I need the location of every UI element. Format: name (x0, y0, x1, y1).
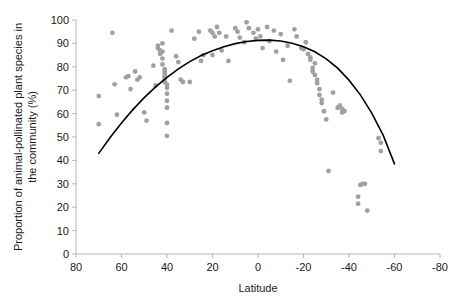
data-point (342, 109, 347, 114)
data-point (378, 140, 383, 145)
data-points-group (96, 20, 383, 213)
data-point (285, 43, 290, 48)
data-point (322, 109, 327, 114)
data-point (265, 25, 270, 30)
data-point (215, 25, 220, 30)
x-tick-label: 80 (70, 261, 82, 273)
y-tick-label: 60 (57, 108, 69, 120)
x-tick-label: -40 (341, 261, 357, 273)
chart-canvas: 0102030405060708090100806040200-20-40-60… (0, 0, 464, 308)
data-point (315, 81, 320, 86)
x-tick-label: 40 (161, 261, 173, 273)
data-point (165, 121, 170, 126)
data-point (247, 26, 252, 31)
data-point (251, 30, 256, 35)
scatter-chart: 0102030405060708090100806040200-20-40-60… (0, 0, 464, 308)
data-point (256, 27, 261, 32)
data-point (272, 28, 277, 33)
data-point (160, 62, 165, 67)
data-point (151, 63, 156, 68)
y-tick-label: 100 (51, 14, 69, 26)
data-point (169, 28, 174, 33)
data-point (224, 34, 229, 39)
y-axis-title-line-1: Proportion of animal-pollinated plant sp… (12, 23, 24, 251)
data-point (287, 78, 292, 83)
data-point (278, 32, 283, 37)
data-point (303, 40, 308, 45)
y-tick-label: 30 (57, 178, 69, 190)
data-point (244, 20, 249, 25)
data-point (96, 122, 101, 127)
x-tick-label: -20 (296, 261, 312, 273)
data-point (199, 59, 204, 64)
data-point (165, 133, 170, 138)
data-point (96, 94, 101, 99)
data-point (160, 49, 165, 54)
y-tick-label: 20 (57, 201, 69, 213)
data-point (274, 49, 279, 54)
data-point (237, 35, 242, 40)
data-point (363, 181, 368, 186)
y-tick-label: 90 (57, 37, 69, 49)
y-tick-label: 80 (57, 61, 69, 73)
data-point (165, 85, 170, 90)
data-point (160, 56, 165, 61)
data-point (308, 57, 313, 62)
data-point (281, 57, 286, 62)
y-axis-ticks: 0102030405060708090100 (51, 14, 76, 260)
data-point (137, 75, 142, 80)
x-axis-title: Latitude (238, 282, 277, 294)
data-point (331, 90, 336, 95)
data-point (356, 194, 361, 199)
data-point (217, 30, 222, 35)
data-point (312, 73, 317, 78)
data-point (165, 98, 170, 103)
data-point (378, 149, 383, 154)
y-tick-label: 70 (57, 84, 69, 96)
data-point (192, 36, 197, 41)
data-point (174, 54, 179, 59)
y-axis-title-line-2: the community (%) (26, 91, 38, 183)
data-point (326, 169, 331, 174)
x-tick-label: 60 (115, 261, 127, 273)
data-point (294, 34, 299, 39)
data-point (160, 41, 165, 46)
data-point (212, 34, 217, 39)
x-tick-label: 20 (206, 261, 218, 273)
data-point (187, 80, 192, 85)
data-point (115, 112, 120, 117)
data-point (324, 117, 329, 122)
data-point (142, 110, 147, 115)
y-axis-title: Proportion of animal-pollinated plant sp… (12, 23, 38, 251)
axes-group (76, 20, 440, 254)
data-point (260, 46, 265, 51)
data-point (210, 53, 215, 58)
data-point (112, 82, 117, 87)
data-point (258, 34, 263, 39)
data-point (165, 91, 170, 96)
data-point (317, 92, 322, 97)
data-point (319, 101, 324, 106)
fit-curve (99, 40, 395, 164)
x-tick-label: 0 (255, 261, 261, 273)
y-tick-label: 50 (57, 131, 69, 143)
data-point (196, 29, 201, 34)
x-tick-label: -60 (387, 261, 403, 273)
data-point (128, 87, 133, 92)
data-point (165, 105, 170, 110)
data-point (110, 30, 115, 35)
data-point (176, 60, 181, 65)
data-point (356, 201, 361, 206)
data-point (133, 69, 138, 74)
data-point (144, 118, 149, 123)
y-tick-label: 40 (57, 154, 69, 166)
data-point (126, 74, 131, 79)
data-point (365, 208, 370, 213)
data-point (317, 87, 322, 92)
data-point (181, 80, 186, 85)
y-tick-label: 10 (57, 225, 69, 237)
data-point (312, 61, 317, 66)
data-point (376, 136, 381, 141)
x-tick-label: -80 (432, 261, 448, 273)
x-axis-ticks: 806040200-20-40-60-80 (70, 254, 448, 273)
